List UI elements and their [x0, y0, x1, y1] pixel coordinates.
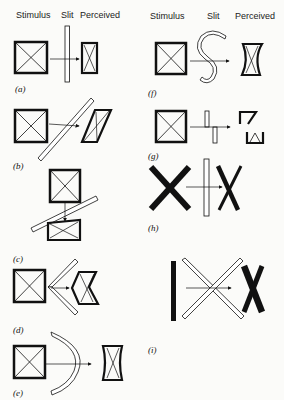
- perceived-figure-icon: [242, 44, 262, 75]
- slit-lower-segment: [213, 127, 217, 143]
- slit-arc: [51, 332, 80, 395]
- panel-d: [14, 259, 98, 315]
- slit-viewing-diagram: [0, 0, 284, 400]
- slit-crossed-diagonals: [182, 258, 244, 319]
- stimulus-square-icon: [15, 110, 47, 142]
- slit-upper-segment: [205, 111, 209, 127]
- stimulus-square-icon: [156, 111, 186, 142]
- perceived-lower-fragment-icon: [247, 132, 263, 143]
- panel-i: [171, 258, 262, 321]
- stimulus-square-icon: [14, 346, 45, 378]
- stimulus-square-icon: [156, 43, 186, 74]
- perceived-figure-icon: [48, 220, 80, 240]
- perceived-figure-icon: [82, 110, 111, 142]
- slit-vertical: [65, 26, 70, 82]
- panel-f: [156, 31, 262, 83]
- perceived-upper-fragment-icon: [240, 112, 256, 124]
- stimulus-square-icon: [15, 42, 47, 73]
- perceived-figure-icon: [82, 43, 97, 73]
- slit-vertical: [204, 159, 209, 216]
- perceived-figure-icon: [103, 346, 122, 380]
- panel-h: [151, 159, 241, 216]
- stimulus-letter-x-icon: [151, 167, 189, 209]
- panel-g: [156, 111, 263, 143]
- stimulus-square-icon: [14, 270, 45, 302]
- arrow-icon: [49, 124, 79, 126]
- panel-e: [14, 332, 122, 395]
- stimulus-bar-icon: [171, 261, 176, 321]
- panel-c: [31, 170, 98, 240]
- perceived-figure-icon: [72, 272, 98, 304]
- slit-s-curve: [197, 31, 226, 83]
- perceived-letter-x-icon: [244, 266, 262, 312]
- stimulus-square-icon: [50, 170, 80, 202]
- panel-a: [15, 26, 97, 82]
- perceived-letter-x-icon: [218, 166, 241, 210]
- panel-b: [15, 98, 111, 161]
